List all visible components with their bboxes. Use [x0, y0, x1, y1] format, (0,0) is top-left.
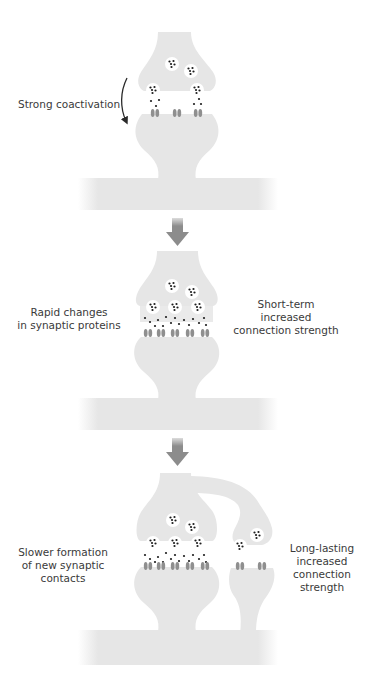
dendrite-bar — [78, 178, 278, 210]
label-long-lasting-strength: Long-lasting increased connection streng… — [284, 542, 360, 594]
coactivation-curved-arrow — [122, 78, 127, 121]
panel-1-synapse — [78, 32, 278, 210]
postsynaptic-spine — [134, 567, 219, 632]
presynaptic-terminal — [136, 251, 218, 306]
step-arrow-1-icon — [166, 218, 189, 246]
step-arrow-2-icon — [166, 438, 189, 466]
panel-2-synapse — [78, 251, 278, 430]
postsynaptic-spine — [136, 114, 219, 180]
dendrite-bar — [78, 630, 278, 665]
label-short-term-strength: Short-term increased connection strength — [232, 298, 340, 337]
new-postsynaptic-spine — [229, 568, 274, 634]
label-strong-coactivation: Strong coactivation — [18, 98, 120, 111]
postsynaptic-spine — [134, 337, 219, 400]
panel-3-synapse — [78, 473, 278, 665]
dendrite-bar — [78, 398, 278, 430]
label-rapid-changes: Rapid changes in synaptic proteins — [14, 306, 124, 332]
label-slower-formation: Slower formation of new synaptic contact… — [18, 546, 108, 585]
